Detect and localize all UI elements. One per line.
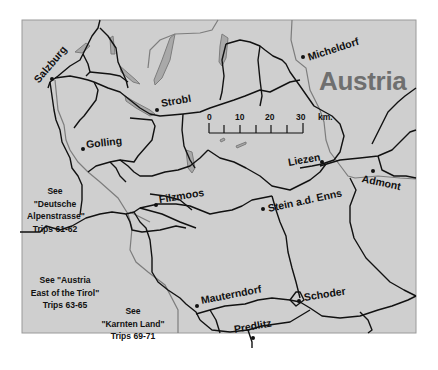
scale-unit: km.: [318, 113, 333, 122]
note-line: Trips 61-62: [27, 223, 83, 236]
dot-admont: [371, 169, 375, 173]
note-line: See: [100, 305, 167, 318]
dot-golling: [81, 147, 85, 151]
dot-schoder: [297, 299, 301, 303]
dot-predlitz: [251, 336, 255, 340]
note-karnten-land: See "Karnten Land" Trips 69-71: [100, 305, 167, 343]
note-line: East of the Tirol": [28, 287, 102, 300]
note-line: Alpenstrasse": [27, 210, 83, 223]
note-line: "Karnten Land": [100, 318, 167, 331]
note-austria-east-of-tirol: See "Austria East of the Tirol" Trips 63…: [28, 274, 102, 312]
country-label: Austria: [319, 68, 406, 94]
dot-stein: [261, 207, 265, 211]
dot-mauterndorf: [195, 304, 199, 308]
note-deutsche-alpenstrasse: See "Deutsche Alpenstrasse" Trips 61-62: [27, 185, 83, 235]
scale-tick-0: 0: [207, 113, 212, 122]
scale-tick-20: 20: [265, 113, 274, 122]
note-line: See: [27, 185, 83, 198]
note-line: "Deutsche: [27, 198, 83, 211]
dot-filzmoos: [154, 203, 158, 207]
note-line: See "Austria: [28, 274, 102, 287]
dot-salzburg: [50, 77, 54, 81]
note-line: Trips 63-65: [28, 299, 102, 312]
note-line: Trips 69-71: [100, 330, 167, 343]
scale-tick-30: 30: [296, 113, 305, 122]
dot-strobl: [155, 108, 159, 112]
scale-tick-10: 10: [235, 113, 244, 122]
dot-micheldorf: [301, 55, 305, 59]
